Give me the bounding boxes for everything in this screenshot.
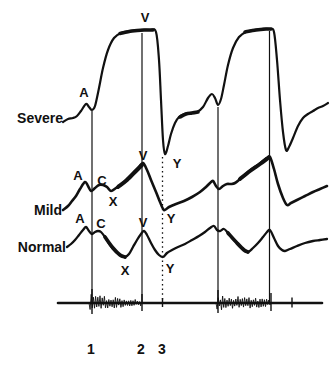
row-label-normal: Normal — [18, 239, 66, 255]
severe-waveform-path — [63, 29, 328, 154]
wave-label-mild-c: C — [97, 173, 107, 188]
beat-number-1: 1 — [87, 341, 95, 357]
wave-label-normal-x: X — [121, 263, 130, 278]
row-label-severe: Severe — [17, 110, 63, 126]
venous-pulse-figure: SevereMildNormalAVYACXVYACVXY123 — [0, 0, 330, 368]
severe-thick-segment-0 — [120, 30, 153, 34]
beat-number-2: 2 — [137, 341, 145, 357]
wave-label-normal-y: Y — [166, 261, 175, 276]
mild-thick-segment-0 — [118, 165, 142, 187]
wave-label-severe-a: A — [79, 85, 89, 100]
wave-label-normal-c: C — [96, 216, 106, 231]
normal-thick-segment-0 — [105, 237, 125, 257]
wave-label-mild-v: V — [139, 148, 148, 163]
row-label-mild: Mild — [34, 202, 62, 218]
normal-thick-segment-1 — [228, 233, 248, 252]
wave-label-mild-a: A — [73, 168, 83, 183]
wave-label-mild-x: X — [109, 194, 118, 209]
wave-label-normal-a: A — [75, 211, 85, 226]
wave-label-normal-v: V — [139, 215, 148, 230]
phono-group — [58, 289, 322, 314]
figure-svg: SevereMildNormalAVYACXVYACVXY123 — [0, 0, 330, 368]
wave-label-severe-y: Y — [173, 156, 182, 171]
severe-thick-segment-2 — [180, 112, 198, 117]
wave-label-severe-v: V — [141, 10, 150, 25]
severe-thick-segment-1 — [245, 29, 271, 32]
mild-thick-segment-1 — [240, 158, 268, 179]
wave-label-mild-y: Y — [167, 211, 176, 226]
beat-number-3: 3 — [158, 341, 166, 357]
